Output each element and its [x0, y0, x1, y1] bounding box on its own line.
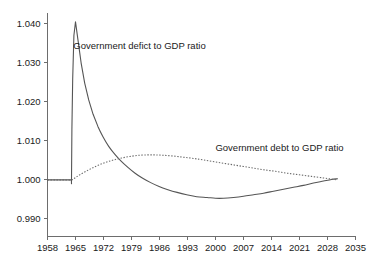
x-axis-group: 1958196519721979198619932000200720142021… [37, 237, 366, 254]
y-tick-label: 0.990 [17, 213, 41, 224]
series-annotation-label: Government debt to GDP ratio [215, 142, 343, 153]
x-tick-label: 2007 [233, 242, 254, 253]
y-tick-label: 1.040 [17, 18, 41, 29]
x-tick-label: 1958 [37, 242, 58, 253]
x-tick-label: 1979 [121, 242, 142, 253]
x-axis-ticks: 1958196519721979198619932000200720142021… [37, 237, 366, 254]
chart-canvas: 0.9901.0001.0101.0201.0301.040 195819651… [0, 0, 369, 269]
y-tick-label: 1.030 [17, 57, 41, 68]
y-axis-group: 0.9901.0001.0101.0201.0301.040 [17, 13, 48, 237]
x-tick-label: 1986 [149, 242, 170, 253]
x-tick-label: 2028 [317, 242, 338, 253]
chart-container: 0.9901.0001.0101.0201.0301.040 195819651… [0, 0, 369, 269]
series-annotation-label: Government defict to GDP ratio [73, 40, 205, 51]
x-tick-label: 1972 [93, 242, 114, 253]
x-tick-label: 2035 [345, 242, 366, 253]
y-tick-label: 1.010 [17, 135, 41, 146]
x-tick-label: 1965 [65, 242, 86, 253]
x-tick-label: 2014 [261, 242, 282, 253]
x-tick-label: 1993 [177, 242, 198, 253]
y-tick-label: 1.000 [17, 174, 41, 185]
annotation-group: Government defict to GDP ratioGovernment… [73, 40, 343, 153]
x-tick-label: 2000 [205, 242, 226, 253]
y-axis-ticks: 0.9901.0001.0101.0201.0301.040 [17, 18, 48, 224]
x-tick-label: 2021 [289, 242, 310, 253]
y-tick-label: 1.020 [17, 96, 41, 107]
series-line-debt [48, 155, 338, 180]
